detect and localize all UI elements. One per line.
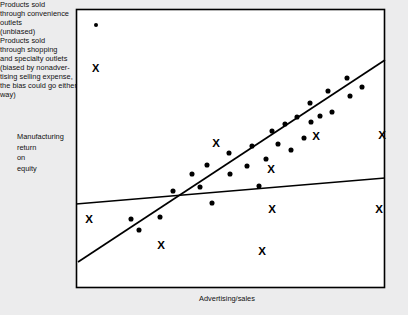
data-point-dot: [301, 135, 306, 140]
data-point-dot: [209, 200, 214, 205]
data-point-x-marker: X: [157, 239, 165, 251]
data-point-x-marker: X: [268, 203, 276, 215]
data-point-x-marker: X: [212, 137, 220, 149]
data-point-dot: [275, 141, 280, 146]
data-point-dot: [347, 93, 352, 98]
data-point-dot: [197, 184, 202, 189]
legend-x-cross-icon: X: [92, 63, 99, 74]
data-point-dot: [329, 109, 334, 114]
x-axis-label: Advertising/sales: [199, 294, 255, 303]
data-point-dot: [263, 156, 268, 161]
plot-frame: [77, 10, 385, 288]
data-point-dot: [294, 114, 299, 119]
data-point-dot: [189, 171, 194, 176]
data-point-dot: [136, 227, 141, 232]
data-point-dot: [170, 188, 175, 193]
plot-frame-rect: [77, 10, 385, 288]
data-point-dot: [157, 214, 162, 219]
data-point-dot: [344, 75, 349, 80]
data-point-x-marker: X: [378, 129, 386, 141]
legend-dot-icon: [94, 23, 98, 27]
legend-entry-convenience-outlets-label: Products sold through convenience outlet…: [0, 0, 77, 36]
data-point-dot: [226, 150, 231, 155]
data-point-dot: [288, 147, 293, 152]
data-point-dot: [282, 121, 287, 126]
data-point-x-marker: X: [375, 203, 383, 215]
data-point-dot: [307, 100, 312, 105]
data-point-x-marker: X: [267, 163, 275, 175]
data-point-dot: [128, 216, 133, 221]
data-point-dot: [269, 128, 274, 133]
data-point-dot: [227, 171, 232, 176]
data-point-dot: [308, 119, 313, 124]
x-axis-label-wrap: Advertising/sales: [0, 294, 408, 303]
data-point-x-marker: X: [312, 130, 320, 142]
legend-entry-shopping-specialty-outlets-label: Products sold through shopping and speci…: [0, 36, 77, 99]
data-point-dot: [359, 84, 364, 89]
data-point-dot: [317, 113, 322, 118]
data-point-x-marker: X: [85, 213, 93, 225]
figure-stage: XXXXXXXXX Products sold through convenie…: [0, 0, 408, 315]
y-axis-label: Manufacturing return on equity: [17, 132, 64, 174]
data-point-x-marker: X: [258, 245, 266, 257]
data-point-dot: [256, 183, 261, 188]
data-point-dot: [249, 143, 254, 148]
data-point-dot: [244, 163, 249, 168]
legend: Products sold through convenience outlet…: [0, 0, 77, 100]
data-point-dot: [325, 88, 330, 93]
data-point-dot: [204, 162, 209, 167]
